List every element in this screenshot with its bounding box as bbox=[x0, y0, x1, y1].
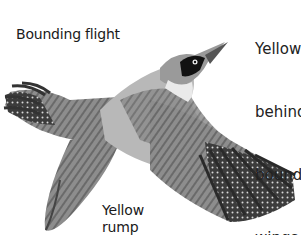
rump-caption-line2: rump bbox=[102, 219, 144, 235]
text-line: Yellow bbox=[255, 39, 301, 60]
rump-caption: Yellow rump bbox=[102, 202, 144, 235]
description-text: Yellow behind. boundin wings e Beware th… bbox=[255, 0, 301, 235]
text-line: wings e bbox=[255, 228, 301, 235]
text-line: behind. bbox=[255, 102, 301, 123]
text-line: boundin bbox=[255, 165, 301, 186]
flight-caption: Bounding flight bbox=[16, 26, 120, 42]
rump-caption-line1: Yellow bbox=[102, 202, 144, 219]
